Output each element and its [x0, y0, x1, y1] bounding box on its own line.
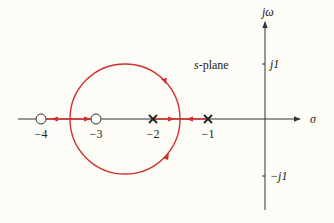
arrow-icon [168, 117, 175, 122]
tick-label: −3 [90, 127, 103, 141]
zero-marker [91, 114, 101, 124]
real-axis-label: σ [310, 112, 317, 126]
arrow-icon [161, 78, 167, 84]
arrow-icon [51, 117, 58, 122]
root-locus-diagram: −4 −3 −2 −1 σ jω j1 −j1 s-plane [0, 0, 334, 223]
tick-label: −2 [147, 127, 160, 141]
zero-marker [36, 114, 46, 124]
arrow-icon [186, 117, 193, 122]
plane-label: s-plane [194, 58, 229, 72]
neg-j1-label: −j1 [270, 169, 287, 183]
imag-axis-label: jω [260, 5, 274, 19]
tick-label: −4 [35, 127, 48, 141]
arrow-icon [163, 153, 169, 160]
j1-label: j1 [268, 57, 279, 71]
tick-label: −1 [202, 127, 215, 141]
arrow-icon [84, 117, 91, 122]
